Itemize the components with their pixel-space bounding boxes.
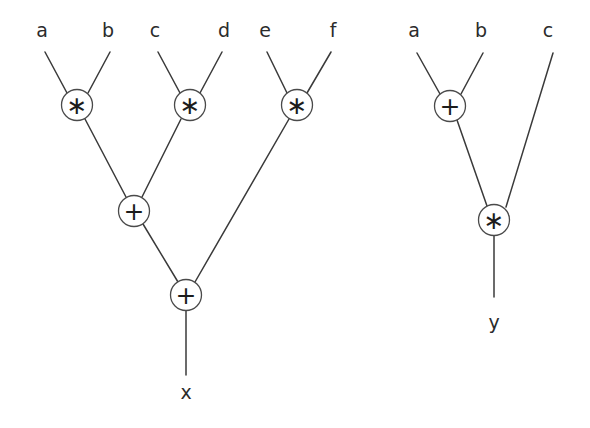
node-add-1[interactable]: + — [119, 196, 150, 227]
leaf-label-b: b — [102, 19, 114, 41]
node-add-3[interactable]: + — [435, 91, 466, 122]
node-mul-3[interactable]: ∗ — [282, 90, 313, 121]
edge-mul2-to-add1 — [142, 119, 181, 197]
edge-a-to-mul1 — [45, 52, 67, 93]
right-tree: + ∗ a b c y — [408, 19, 553, 333]
leaf-label-e: e — [259, 19, 271, 41]
node-mul-1[interactable]: ∗ — [62, 90, 93, 121]
edge-add1-to-add2 — [143, 224, 178, 282]
node-mul-4-label: ∗ — [484, 206, 505, 235]
leaf-label-d: d — [218, 19, 230, 41]
node-mul-2[interactable]: ∗ — [175, 90, 206, 121]
expression-tree-diagram: ∗ ∗ ∗ + + a b c — [0, 0, 590, 428]
diagram-canvas: ∗ ∗ ∗ + + a b c — [0, 0, 590, 428]
node-mul-3-label: ∗ — [287, 91, 308, 120]
edge-b2-to-add3 — [461, 53, 483, 94]
edge-f-to-mul3 — [307, 52, 331, 93]
node-mul-2-label: ∗ — [180, 91, 201, 120]
edge-add3-to-mul4 — [457, 120, 487, 206]
node-add-3-label: + — [440, 92, 461, 121]
left-tree: ∗ ∗ ∗ + + a b c — [36, 19, 337, 403]
edge-a2-to-add3 — [417, 53, 440, 94]
leaf-label-f: f — [330, 19, 338, 41]
edge-d-to-mul2 — [200, 52, 222, 93]
edge-mul3-to-add2 — [195, 119, 289, 282]
leaf-label-b2: b — [475, 19, 487, 41]
output-label-y: y — [488, 311, 499, 333]
leaf-label-c: c — [150, 19, 160, 41]
edge-c-to-mul2 — [158, 52, 180, 93]
node-mul-4[interactable]: ∗ — [479, 205, 510, 236]
edge-b-to-mul1 — [88, 52, 110, 93]
node-add-1-label: + — [124, 197, 145, 226]
node-add-2[interactable]: + — [171, 280, 202, 311]
output-label-x: x — [180, 381, 191, 403]
leaf-label-a2: a — [408, 19, 420, 41]
node-add-2-label: + — [176, 281, 197, 310]
leaf-label-a: a — [36, 19, 48, 41]
leaf-label-c2: c — [543, 19, 553, 41]
edge-e-to-mul3 — [267, 52, 287, 93]
edge-mul1-to-add1 — [85, 119, 126, 197]
node-mul-1-label: ∗ — [67, 91, 88, 120]
edge-c2-to-mul4 — [506, 53, 553, 207]
